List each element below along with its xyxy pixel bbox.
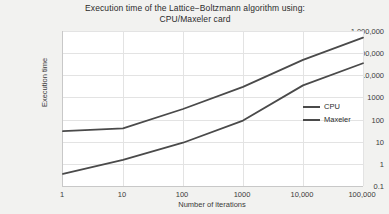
x-axis-tick-label: 10,000 (272, 190, 332, 199)
legend-label-cpu: CPU (324, 102, 340, 111)
x-axis-tick-label: 10 (92, 190, 152, 199)
chart-title-line-1: Execution time of the Lattice−Boltzmann … (50, 3, 340, 14)
y-axis-title: Execution time (40, 23, 49, 143)
x-axis-tick-label: 100 (152, 190, 212, 199)
legend-item-cpu[interactable]: CPU (303, 100, 379, 113)
x-axis-tick-label: 1000 (212, 190, 272, 199)
chart-title: Execution time of the Lattice−Boltzmann … (50, 3, 340, 25)
x-axis-tick-label: 1 (32, 190, 92, 199)
legend-swatch-cpu (303, 106, 320, 108)
chart-title-line-2: CPU/Maxeler card (50, 14, 340, 25)
chart-legend: CPUMaxeler (303, 100, 379, 126)
x-axis-title: Number of iterations (62, 200, 362, 209)
x-axis-tick-label: 100,000 (332, 190, 389, 199)
legend-item-maxeler[interactable]: Maxeler (303, 113, 379, 126)
legend-label-maxeler: Maxeler (324, 115, 351, 124)
legend-swatch-maxeler (303, 119, 320, 121)
